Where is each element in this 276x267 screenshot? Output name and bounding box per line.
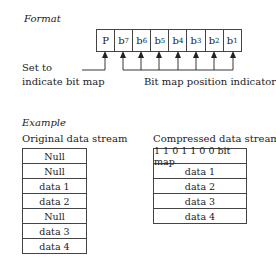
- table-row: data 2: [23, 194, 86, 209]
- original-title: Original data stream: [22, 133, 127, 144]
- compressed-title: Compressed data stream: [153, 133, 276, 144]
- compressed-data-table: 1 1 0 1 1 0 0 bit map data 1 data 2 data…: [153, 148, 247, 224]
- table-row: data 3: [154, 194, 246, 209]
- table-row: Null: [23, 164, 86, 179]
- table-row: Null: [23, 149, 86, 164]
- table-row: data 2: [154, 179, 246, 194]
- table-row: data 3: [23, 224, 86, 239]
- table-row: data 1: [23, 179, 86, 194]
- table-row: 1 1 0 1 1 0 0 bit map: [154, 149, 246, 164]
- original-data-table: Null Null data 1 data 2 Null data 3 data…: [22, 148, 87, 254]
- set-label-line1: Set to: [22, 62, 52, 73]
- position-label: Bit map position indicators: [144, 76, 276, 87]
- set-label-line2: indicate bit map: [22, 76, 105, 87]
- table-row: data 4: [23, 239, 86, 253]
- table-row: data 4: [154, 209, 246, 223]
- example-heading: Example: [22, 117, 66, 128]
- table-row: Null: [23, 209, 86, 224]
